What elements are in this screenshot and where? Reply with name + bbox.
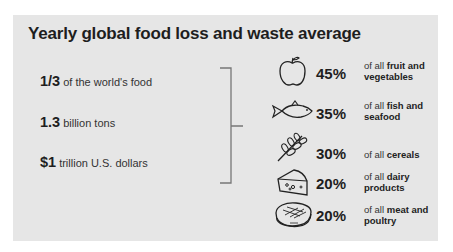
steak-icon — [270, 199, 316, 233]
stat-dollars: $1trillion U.S. dollars — [40, 154, 148, 170]
wheat-icon — [270, 131, 316, 165]
cheese-icon — [270, 166, 316, 200]
stat-share: 1/3of the world's food — [40, 73, 152, 89]
bracket-icon — [218, 67, 244, 185]
fish-icon — [270, 95, 316, 129]
apple-icon — [270, 55, 316, 89]
infographic-title: Yearly global food loss and waste averag… — [28, 24, 361, 44]
stat-tons: 1.3billion tons — [40, 114, 115, 130]
